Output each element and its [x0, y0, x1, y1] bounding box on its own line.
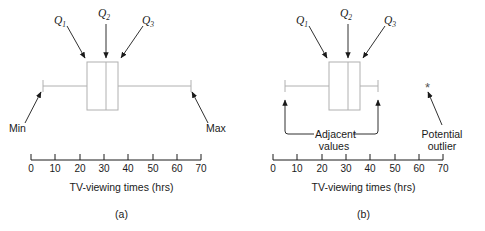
axis-title-a: TV-viewing times (hrs): [0, 181, 243, 193]
boxplot-a: [43, 62, 191, 110]
axis-a: [31, 154, 201, 160]
tick-label-b-30: 30: [336, 163, 356, 174]
tick-label-b-60: 60: [409, 163, 429, 174]
tick-label-b-40: 40: [360, 163, 380, 174]
potential-outlier-line1: Potential: [416, 128, 468, 140]
q3-label-b: Q3: [384, 14, 396, 29]
outlier-star-marker: *: [425, 84, 430, 92]
bracket-adjacent-right: [353, 128, 378, 134]
axis-b: [273, 154, 443, 160]
tick-label-60: 60: [167, 163, 187, 174]
tick-label-10: 10: [45, 163, 65, 174]
axis-title-b: TV-viewing times (hrs): [242, 181, 485, 193]
tick-label-b-10: 10: [287, 163, 307, 174]
q2-label-b: Q2: [340, 7, 352, 22]
potential-outlier-label: Potential outlier: [416, 128, 468, 152]
box-b: [329, 62, 360, 110]
panel-caption-b: (b): [242, 208, 485, 220]
arrow-q3-a: [121, 26, 143, 58]
arrow-potential-outlier: [428, 92, 442, 125]
tick-label-b-0: 0: [263, 163, 283, 174]
box-a: [87, 62, 118, 110]
q1-label-a: Q1: [54, 14, 66, 29]
tick-label-40: 40: [118, 163, 138, 174]
adjacent-values-line1: Adjacent: [315, 128, 353, 140]
adjacent-values-label: Adjacent values: [315, 128, 353, 152]
arrow-q3-b: [363, 26, 385, 58]
min-label: Min: [9, 123, 26, 134]
arrow-q1-a: [67, 26, 85, 58]
panel-a: Q1 Q2 Q3 Min Max 0 10 20 30 40 50 60 70 …: [0, 0, 243, 231]
tick-label-30: 30: [94, 163, 114, 174]
panel-b-graphics: [242, 0, 485, 231]
panel-caption-a: (a): [0, 208, 243, 220]
arrow-max-a: [192, 92, 208, 123]
panel-b: Q1 Q2 Q3 * Adjacent values Potential out…: [242, 0, 485, 231]
q1-label-b: Q1: [296, 14, 308, 29]
panel-a-graphics: [0, 0, 243, 231]
tick-label-b-20: 20: [312, 163, 332, 174]
arrow-min-a: [25, 92, 41, 123]
q3-label-a: Q3: [142, 14, 154, 29]
tick-label-b-70: 70: [433, 163, 453, 174]
boxplot-figure: Q1 Q2 Q3 Min Max 0 10 20 30 40 50 60 70 …: [0, 0, 485, 231]
tick-label-50: 50: [143, 163, 163, 174]
boxplot-b: [285, 62, 378, 110]
q2-label-a: Q2: [98, 7, 110, 22]
adjacent-values-line2: values: [315, 140, 353, 152]
potential-outlier-line2: outlier: [416, 140, 468, 152]
tick-label-20: 20: [70, 163, 90, 174]
tick-label-70: 70: [191, 163, 211, 174]
max-label: Max: [206, 123, 226, 134]
tick-label-b-50: 50: [385, 163, 405, 174]
tick-label-0: 0: [21, 163, 41, 174]
arrow-q1-b: [309, 26, 327, 58]
bracket-adjacent-left: [285, 128, 314, 134]
